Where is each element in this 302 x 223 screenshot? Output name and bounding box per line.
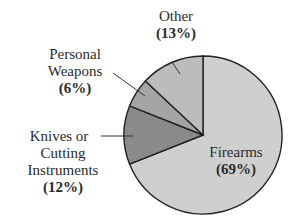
pie-slices [124,56,282,214]
leader-line-personal-weapons [113,73,145,96]
label-knives-pct: (12%) [18,179,108,196]
label-knives-line1: Knives or [30,128,89,144]
label-personal-pct: (6%) [38,80,112,97]
label-firearms: Firearms (69%) [200,144,272,178]
label-knives: Knives or Cutting Instruments (12%) [18,128,108,196]
label-personal-line2: Weapons [48,63,103,79]
label-personal-line1: Personal [49,46,101,62]
label-personal-weapons: Personal Weapons (6%) [38,46,112,97]
label-other-pct: (13%) [136,25,216,42]
label-other: Other (13%) [136,8,216,42]
label-other-name: Other [159,8,193,24]
label-firearms-name: Firearms [209,144,262,160]
label-knives-line3: Instruments [28,162,99,178]
label-firearms-pct: (69%) [200,161,272,178]
label-knives-line2: Cutting [40,145,85,161]
